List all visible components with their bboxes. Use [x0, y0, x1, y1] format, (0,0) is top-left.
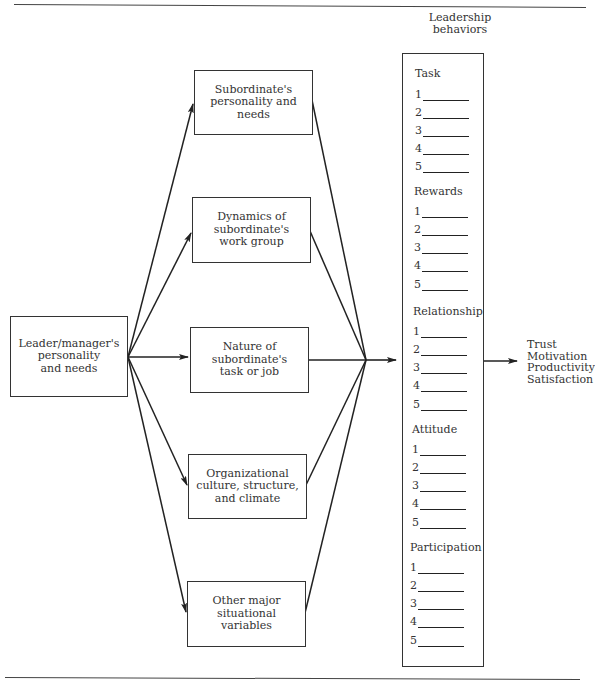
leader-personality-label: Leader/manager's personality and needs	[19, 338, 120, 376]
blank-line[interactable]	[421, 345, 467, 356]
blank-line[interactable]	[421, 381, 467, 392]
arrow-to-factor-5	[128, 357, 186, 612]
blank-line[interactable]	[418, 581, 464, 592]
item-number: 1	[413, 325, 420, 338]
section-title-relationship: Relationship	[413, 305, 483, 318]
item-number: 1	[415, 88, 422, 101]
item-number: 1	[414, 205, 421, 218]
rewards-item-2[interactable]: 2	[414, 223, 468, 236]
line-from-factor-2	[310, 231, 366, 360]
outcome-productivity: Productivity	[527, 362, 595, 374]
factor-label: Organizational culture, structure, and c…	[196, 468, 298, 506]
task-item-5[interactable]: 5	[415, 160, 469, 173]
blank-line[interactable]	[418, 617, 464, 628]
task-item-1[interactable]: 1	[415, 88, 469, 101]
blank-line[interactable]	[422, 243, 468, 254]
blank-line[interactable]	[418, 563, 464, 574]
item-number: 2	[412, 461, 419, 474]
blank-line[interactable]	[421, 400, 467, 411]
relationship-item-5[interactable]: 5	[413, 398, 467, 411]
item-number: 4	[414, 259, 421, 272]
blank-line[interactable]	[420, 499, 466, 510]
outcome-satisfaction: Satisfaction	[527, 374, 595, 386]
arrow-to-factor-4	[128, 357, 187, 485]
blank-line[interactable]	[420, 481, 466, 492]
participation-item-2[interactable]: 2	[410, 579, 464, 592]
blank-line[interactable]	[418, 599, 464, 610]
task-item-2[interactable]: 2	[415, 106, 469, 119]
blank-line[interactable]	[420, 445, 466, 456]
blank-line[interactable]	[420, 463, 466, 474]
task-item-4[interactable]: 4	[415, 142, 469, 155]
relationship-item-4[interactable]: 4	[413, 379, 467, 392]
arrow-to-factor-2	[128, 233, 191, 357]
leadership-behaviors-title: Leadership behaviors	[420, 12, 500, 36]
blank-line[interactable]	[423, 162, 469, 173]
attitude-item-4[interactable]: 4	[412, 497, 466, 510]
rewards-item-4[interactable]: 4	[414, 259, 468, 272]
task-item-3[interactable]: 3	[415, 124, 469, 137]
rewards-item-3[interactable]: 3	[414, 241, 468, 254]
outcome-trust: Trust	[527, 339, 595, 351]
item-number: 1	[412, 443, 419, 456]
rewards-item-5[interactable]: 5	[414, 278, 468, 291]
blank-line[interactable]	[422, 280, 468, 291]
relationship-item-2[interactable]: 2	[413, 343, 467, 356]
factor-box-work-group-dynamics: Dynamics of subordinate's work group	[192, 197, 311, 263]
participation-item-3[interactable]: 3	[410, 597, 464, 610]
blank-line[interactable]	[418, 636, 464, 647]
participation-item-1[interactable]: 1	[410, 561, 464, 574]
blank-line[interactable]	[422, 225, 468, 236]
item-number: 3	[413, 361, 420, 374]
factor-box-organizational-culture: Organizational culture, structure, and c…	[188, 454, 307, 519]
section-title-rewards: Rewards	[414, 185, 463, 198]
item-number: 1	[410, 561, 417, 574]
line-from-factor-4	[306, 360, 366, 485]
attitude-item-3[interactable]: 3	[412, 479, 466, 492]
attitude-item-2[interactable]: 2	[412, 461, 466, 474]
blank-line[interactable]	[421, 363, 467, 374]
line-from-factor-5	[305, 360, 366, 613]
blank-line[interactable]	[423, 90, 469, 101]
item-number: 2	[415, 106, 422, 119]
attitude-item-5[interactable]: 5	[412, 516, 466, 529]
blank-line[interactable]	[421, 327, 467, 338]
blank-line[interactable]	[422, 261, 468, 272]
section-title-attitude: Attitude	[412, 423, 457, 436]
factor-label: Dynamics of subordinate's work group	[214, 211, 289, 249]
item-number: 4	[415, 142, 422, 155]
fan-in-lines	[305, 100, 366, 613]
relationship-item-3[interactable]: 3	[413, 361, 467, 374]
line-from-factor-1	[312, 100, 366, 360]
blank-line[interactable]	[423, 108, 469, 119]
item-number: 2	[414, 223, 421, 236]
factor-box-situational-variables: Other major situational variables	[187, 581, 306, 647]
item-number: 3	[410, 597, 417, 610]
item-number: 5	[415, 160, 422, 173]
participation-item-4[interactable]: 4	[410, 615, 464, 628]
fan-out-arrows	[128, 104, 193, 612]
item-number: 3	[415, 124, 422, 137]
blank-line[interactable]	[422, 207, 468, 218]
attitude-item-1[interactable]: 1	[412, 443, 466, 456]
item-number: 3	[414, 241, 421, 254]
factor-box-subordinate-personality: Subordinate's personality and needs	[194, 70, 313, 135]
relationship-item-1[interactable]: 1	[413, 325, 467, 338]
factor-label: Subordinate's personality and needs	[210, 84, 297, 122]
section-title-participation: Participation	[410, 541, 482, 554]
item-number: 4	[412, 497, 419, 510]
arrow-to-factor-1	[128, 104, 193, 357]
blank-line[interactable]	[423, 144, 469, 155]
outcomes-list: Trust Motivation Productivity Satisfacti…	[527, 339, 595, 385]
factor-label: Other major situational variables	[212, 595, 280, 633]
blank-line[interactable]	[423, 126, 469, 137]
item-number: 2	[410, 579, 417, 592]
blank-line[interactable]	[420, 518, 466, 529]
factor-box-task-nature: Nature of subordinate's task or job	[190, 327, 309, 393]
item-number: 5	[412, 516, 419, 529]
participation-item-5[interactable]: 5	[410, 634, 464, 647]
rewards-item-1[interactable]: 1	[414, 205, 468, 218]
item-number: 5	[414, 278, 421, 291]
factor-label: Nature of subordinate's task or job	[212, 341, 287, 379]
item-number: 5	[413, 398, 420, 411]
